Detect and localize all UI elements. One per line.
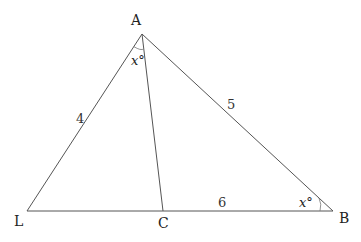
side-length-AL: 4 [76,111,84,126]
side-length-CB: 6 [218,195,226,210]
vertex-label-C: C [158,215,169,231]
triangle-diagram: A L C B 4 5 6 x° x° [0,0,361,242]
segment-AC [142,34,163,211]
vertex-label-A: A [130,12,142,28]
vertex-label-B: B [339,210,349,226]
segment-AB [142,34,333,211]
side-length-AB: 5 [227,97,235,112]
segment-AL [27,34,142,211]
angle-label-B: x° [299,195,313,210]
angle-label-A: x° [131,53,145,68]
vertex-label-L: L [14,213,23,229]
angle-arc-A [134,47,144,50]
